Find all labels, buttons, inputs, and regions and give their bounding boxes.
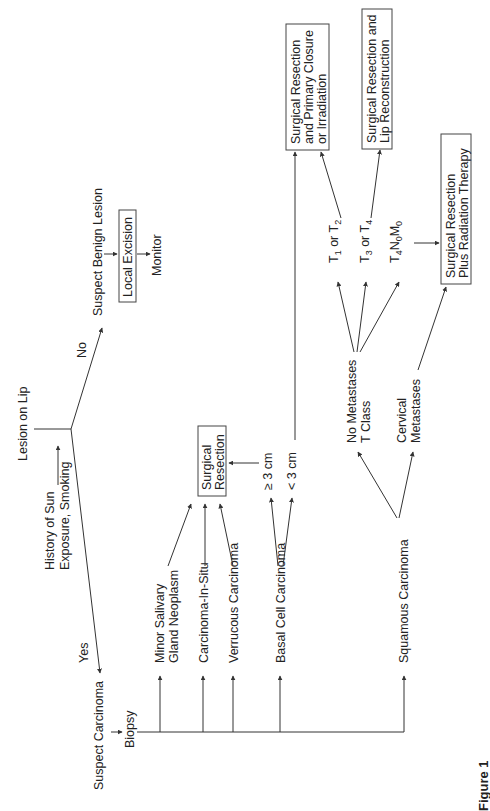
- outcome-reconstruction-line2: Lip Reconstruction: [378, 39, 392, 143]
- no-metastases-label-line1: No Metastases: [345, 360, 359, 443]
- t4n0m0-label: T4N0M0: [388, 221, 404, 263]
- no-metastases-label-line2: T Class: [359, 401, 373, 443]
- verrucous-label: Verrucous Carcinoma: [227, 543, 241, 663]
- lip-lesion-flowchart: Lesion on Lip History of Sun Exposure, S…: [0, 0, 490, 811]
- outcome-primary-closure-line1: Surgical Resection: [289, 40, 303, 144]
- cervical-metastases-label-line1: Cervical: [395, 398, 409, 443]
- risk-factor-label-line2: Exposure, Smoking: [58, 462, 72, 570]
- t3t4-to-reconstruction: [371, 150, 380, 218]
- minor-salivary-to-resection: [168, 504, 191, 566]
- surgical-resection-label-line2: Resection: [213, 434, 227, 490]
- cervical-metastases-label-line2: Metastases: [409, 379, 423, 443]
- squamous-label: Squamous Carcinoma: [397, 539, 411, 663]
- t1t2-to-primary-closure: [321, 152, 341, 218]
- t3-t4-label: T3 or T4: [358, 220, 374, 263]
- biopsy-label: Biopsy: [123, 710, 137, 748]
- no-branch-label: No: [75, 342, 89, 358]
- benign-label: Suspect Benign Lesion: [91, 188, 105, 316]
- outcome-reconstruction-line1: Surgical Resection and: [365, 14, 379, 143]
- basal-cell-label: Basal Cell Carcinoma: [274, 543, 288, 663]
- squamous-to-cervical: [399, 452, 413, 518]
- minor-salivary-label-line1: Minor Salivary: [153, 583, 167, 663]
- squamous-to-no-metastases: [358, 452, 397, 518]
- minor-salivary-label-line2: Gland Neoplasm: [167, 570, 181, 663]
- local-excision-label: Local Excision: [121, 217, 135, 297]
- figure-caption: Figure 1: [476, 760, 490, 811]
- monitor-label: Monitor: [150, 234, 164, 276]
- carcinoma-in-situ-label: Carcinoma-In-Situ: [197, 562, 211, 663]
- yes-branch-line: [71, 429, 100, 673]
- outcome-radiation-line2: Plus Radiation Therapy: [457, 148, 471, 278]
- no-met-to-t1t2: [338, 282, 354, 352]
- suspect-carcinoma-label: Suspect Carcinoma: [92, 681, 106, 790]
- no-met-to-t3t4: [357, 282, 366, 352]
- size-ge3-label: ≥ 3 cm: [261, 453, 275, 490]
- t1-t2-label: T1 or T2: [327, 220, 343, 263]
- no-met-to-t4n0m0: [360, 282, 399, 352]
- flowchart-canvas: Lesion on Lip History of Sun Exposure, S…: [0, 0, 490, 811]
- surgical-resection-label-line1: Surgical: [200, 445, 214, 490]
- yes-branch-label: Yes: [77, 643, 91, 663]
- size-lt3-label: < 3 cm: [285, 452, 299, 490]
- outcome-primary-closure-line2: and Primary Closure: [302, 30, 316, 144]
- risk-factor-label-line1: History of Sun: [43, 491, 57, 570]
- outcome-primary-closure-line3: or Irradiation: [315, 74, 329, 144]
- outcome-radiation-line1: Surgical Resection: [444, 174, 458, 278]
- root-label: Lesion on Lip: [16, 387, 30, 461]
- cervical-to-radiation: [418, 287, 446, 370]
